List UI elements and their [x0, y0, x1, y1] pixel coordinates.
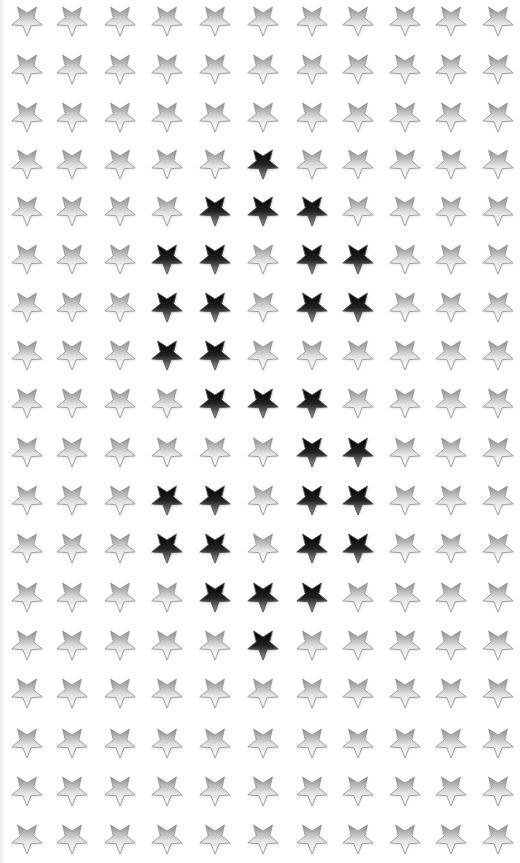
- star-cell[interactable]: [55, 337, 89, 371]
- star-cell[interactable]: [481, 627, 515, 661]
- star-cell[interactable]: [198, 434, 232, 468]
- star-cell[interactable]: [341, 51, 375, 85]
- star-cell[interactable]: [10, 337, 44, 371]
- star-cell-active[interactable]: [150, 337, 184, 371]
- star-cell[interactable]: [55, 385, 89, 419]
- star-cell-active[interactable]: [295, 385, 329, 419]
- star-cell[interactable]: [55, 627, 89, 661]
- star-cell[interactable]: [341, 725, 375, 759]
- star-cell[interactable]: [341, 99, 375, 133]
- star-cell[interactable]: [150, 434, 184, 468]
- star-cell[interactable]: [295, 51, 329, 85]
- star-cell[interactable]: [434, 289, 468, 323]
- star-cell[interactable]: [388, 99, 422, 133]
- star-cell[interactable]: [10, 579, 44, 613]
- star-cell[interactable]: [434, 434, 468, 468]
- star-cell[interactable]: [388, 773, 422, 807]
- star-cell[interactable]: [434, 530, 468, 564]
- star-cell-active[interactable]: [341, 434, 375, 468]
- star-cell[interactable]: [388, 289, 422, 323]
- star-cell[interactable]: [198, 627, 232, 661]
- star-cell-active[interactable]: [295, 289, 329, 323]
- star-cell[interactable]: [481, 146, 515, 180]
- star-cell[interactable]: [10, 146, 44, 180]
- star-cell[interactable]: [10, 385, 44, 419]
- star-cell[interactable]: [103, 3, 137, 37]
- star-cell[interactable]: [150, 821, 184, 855]
- star-cell[interactable]: [481, 99, 515, 133]
- star-cell[interactable]: [150, 51, 184, 85]
- star-cell[interactable]: [10, 627, 44, 661]
- star-cell[interactable]: [10, 725, 44, 759]
- star-cell[interactable]: [55, 579, 89, 613]
- star-cell[interactable]: [388, 821, 422, 855]
- star-cell-active[interactable]: [341, 482, 375, 516]
- star-cell[interactable]: [295, 627, 329, 661]
- star-cell[interactable]: [103, 337, 137, 371]
- star-cell[interactable]: [481, 482, 515, 516]
- star-cell[interactable]: [103, 385, 137, 419]
- star-cell[interactable]: [246, 51, 280, 85]
- star-cell-active[interactable]: [246, 193, 280, 227]
- star-cell[interactable]: [481, 385, 515, 419]
- star-cell[interactable]: [341, 821, 375, 855]
- star-cell[interactable]: [10, 3, 44, 37]
- star-cell[interactable]: [388, 434, 422, 468]
- star-cell[interactable]: [434, 482, 468, 516]
- star-cell[interactable]: [434, 146, 468, 180]
- star-cell[interactable]: [103, 530, 137, 564]
- star-cell[interactable]: [246, 3, 280, 37]
- star-cell[interactable]: [246, 821, 280, 855]
- star-cell[interactable]: [388, 579, 422, 613]
- star-cell[interactable]: [434, 821, 468, 855]
- star-cell[interactable]: [388, 241, 422, 275]
- star-cell-active[interactable]: [198, 385, 232, 419]
- star-cell[interactable]: [388, 725, 422, 759]
- star-cell-active[interactable]: [295, 241, 329, 275]
- star-cell[interactable]: [198, 3, 232, 37]
- star-cell[interactable]: [341, 627, 375, 661]
- star-cell[interactable]: [150, 193, 184, 227]
- star-cell[interactable]: [246, 530, 280, 564]
- star-cell[interactable]: [481, 51, 515, 85]
- star-cell[interactable]: [481, 3, 515, 37]
- star-cell[interactable]: [10, 773, 44, 807]
- star-cell[interactable]: [481, 530, 515, 564]
- star-cell[interactable]: [481, 337, 515, 371]
- star-cell[interactable]: [295, 725, 329, 759]
- star-cell[interactable]: [295, 773, 329, 807]
- star-cell[interactable]: [246, 773, 280, 807]
- star-cell[interactable]: [434, 193, 468, 227]
- star-cell[interactable]: [434, 725, 468, 759]
- star-cell-active[interactable]: [246, 146, 280, 180]
- star-cell[interactable]: [150, 773, 184, 807]
- star-cell[interactable]: [198, 146, 232, 180]
- star-cell[interactable]: [103, 821, 137, 855]
- star-cell-active[interactable]: [198, 289, 232, 323]
- star-cell-active[interactable]: [150, 482, 184, 516]
- star-cell[interactable]: [150, 146, 184, 180]
- star-cell[interactable]: [103, 482, 137, 516]
- star-cell-active[interactable]: [150, 289, 184, 323]
- star-cell[interactable]: [388, 530, 422, 564]
- star-cell[interactable]: [341, 675, 375, 709]
- star-cell[interactable]: [103, 627, 137, 661]
- star-cell[interactable]: [295, 146, 329, 180]
- star-cell[interactable]: [434, 579, 468, 613]
- star-cell[interactable]: [198, 99, 232, 133]
- star-cell[interactable]: [434, 627, 468, 661]
- star-cell-active[interactable]: [295, 434, 329, 468]
- star-cell[interactable]: [246, 675, 280, 709]
- star-cell[interactable]: [295, 337, 329, 371]
- star-cell[interactable]: [295, 99, 329, 133]
- star-cell[interactable]: [10, 51, 44, 85]
- star-cell[interactable]: [10, 193, 44, 227]
- star-cell[interactable]: [388, 337, 422, 371]
- star-cell[interactable]: [246, 434, 280, 468]
- star-cell[interactable]: [103, 579, 137, 613]
- star-cell-active[interactable]: [295, 579, 329, 613]
- star-cell-active[interactable]: [246, 627, 280, 661]
- star-cell[interactable]: [10, 821, 44, 855]
- star-cell-active[interactable]: [246, 579, 280, 613]
- star-cell[interactable]: [341, 337, 375, 371]
